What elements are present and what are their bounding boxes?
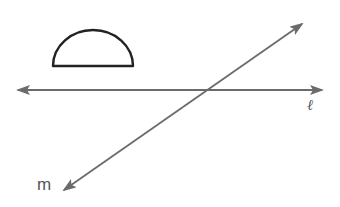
- semicircle-shape: [53, 30, 133, 66]
- line-l-label: ℓ: [307, 96, 313, 114]
- line-m: [183, 24, 302, 107]
- line-m-label: m: [37, 175, 51, 194]
- diagram-canvas: ℓ m: [0, 0, 340, 207]
- line-m-lower: [64, 107, 183, 190]
